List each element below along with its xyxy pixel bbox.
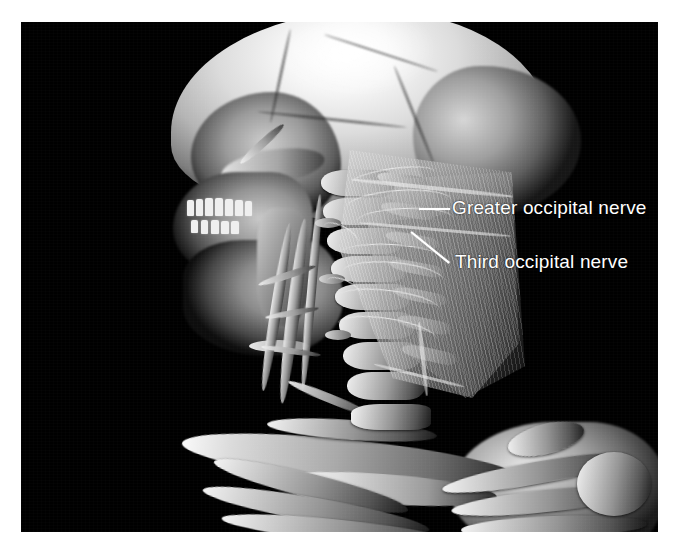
tooth xyxy=(231,221,239,234)
figure-container: Greater occipital nerve Third occipital … xyxy=(0,0,688,552)
tooth xyxy=(201,220,208,234)
tooth xyxy=(225,199,233,216)
tooth xyxy=(187,200,194,216)
tooth xyxy=(215,198,223,216)
tooth xyxy=(221,221,229,234)
tooth xyxy=(235,200,243,216)
vertebra-t2 xyxy=(351,404,431,430)
tooth xyxy=(205,198,213,216)
greater-occipital-nerve-leader-line xyxy=(419,208,450,210)
tooth xyxy=(211,220,219,234)
ct-volume-rendering-image xyxy=(21,22,658,532)
tooth xyxy=(191,220,198,233)
humerus-head xyxy=(577,452,651,516)
tooth xyxy=(245,201,252,216)
tooth xyxy=(196,199,203,216)
third-occipital-nerve-label: Third occipital nerve xyxy=(455,252,628,272)
greater-occipital-nerve-label: Greater occipital nerve xyxy=(452,198,647,218)
